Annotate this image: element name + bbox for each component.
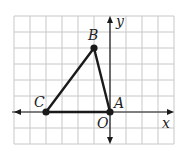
point-label-b: B	[87, 27, 98, 43]
x-axis-arrow-left-icon	[14, 109, 21, 115]
y-axis-label: y	[115, 13, 125, 29]
point-label-c: C	[34, 94, 45, 110]
y-axis-arrow-down-icon	[107, 137, 113, 144]
origin-label: O	[97, 115, 109, 131]
y-axis-arrow-up-icon	[107, 16, 113, 23]
point-b-dot	[90, 44, 97, 51]
point-label-a: A	[112, 95, 124, 111]
x-axis-label: x	[162, 115, 170, 131]
coordinate-plane: y x O A B C	[0, 0, 188, 155]
